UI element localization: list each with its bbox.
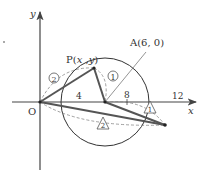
tick-label-12: 12 — [172, 91, 183, 101]
triangle-1-marker: 1 — [144, 101, 156, 114]
point-a — [103, 100, 106, 103]
svg-text:2: 2 — [101, 122, 105, 130]
svg-text:1: 1 — [110, 73, 115, 82]
origin-label: O — [28, 106, 36, 117]
circled-1-marker: 1 — [108, 71, 118, 82]
stray-mark — [3, 41, 5, 43]
svg-text:2: 2 — [51, 75, 56, 84]
segment-pa — [94, 68, 105, 102]
point-q — [163, 123, 167, 127]
tick-label-8: 8 — [124, 90, 130, 100]
y-axis-label: y — [29, 8, 36, 19]
point-o — [38, 100, 41, 103]
coordinate-diagram: y x O 4 8 12 P(x ,y) A(6, 0) 2 1 1 2 — [0, 0, 208, 184]
segment-aq — [105, 102, 165, 125]
tick-label-4: 4 — [76, 91, 82, 101]
svg-text:1: 1 — [148, 106, 152, 114]
x-axis-label: x — [188, 105, 194, 116]
point-p — [92, 66, 95, 69]
point-a-label: A(6, 0) — [129, 37, 164, 48]
circled-2-marker: 2 — [49, 73, 59, 84]
point-p-label: P(x ,y) — [66, 54, 98, 65]
